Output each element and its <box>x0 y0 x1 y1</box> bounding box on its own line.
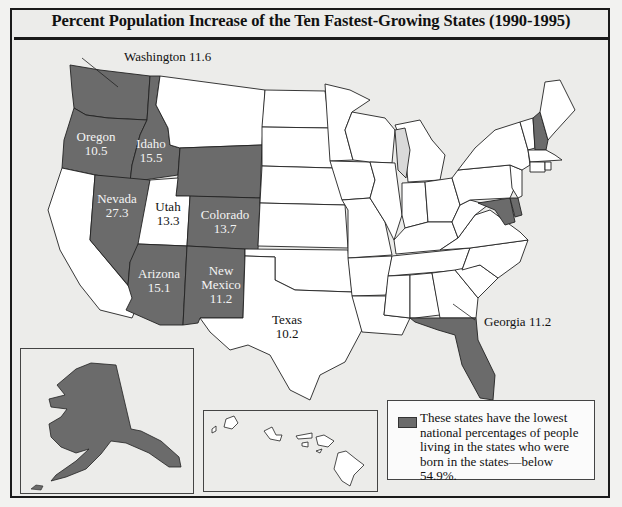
state-arkansas <box>348 256 392 296</box>
legend-swatch <box>398 417 417 428</box>
state-florida <box>410 318 495 400</box>
state-hawaii <box>204 411 377 491</box>
label-idaho-name: Idaho <box>128 137 174 151</box>
state-indiana <box>402 182 428 228</box>
label-colorado-value: 13.7 <box>193 222 257 236</box>
label-arizona-value: 15.1 <box>132 281 186 295</box>
label-utah-value: 13.3 <box>148 214 188 228</box>
label-idaho: Idaho 15.5 <box>128 137 174 165</box>
label-new-mexico-name1: New <box>193 264 249 278</box>
state-mississippi <box>384 275 410 318</box>
label-new-mexico-value: 11.2 <box>193 292 249 306</box>
label-nevada-value: 27.3 <box>92 206 142 220</box>
label-arizona: Arizona 15.1 <box>132 267 186 295</box>
state-wyoming <box>176 145 262 198</box>
label-idaho-value: 15.5 <box>128 151 174 165</box>
label-nevada: Nevada 27.3 <box>92 192 142 220</box>
state-north-dakota <box>262 90 330 128</box>
state-massachusetts <box>528 150 562 162</box>
label-washington: Washington 11.6 <box>124 50 211 64</box>
state-kansas <box>258 203 348 248</box>
label-texas-name: Texas <box>262 313 312 327</box>
label-new-mexico-name2: Mexico <box>193 278 249 292</box>
state-washington <box>70 65 150 120</box>
label-oregon-value: 10.5 <box>68 144 124 158</box>
label-utah: Utah 13.3 <box>148 200 188 228</box>
state-maine <box>540 80 575 140</box>
state-alaska <box>21 349 193 493</box>
label-new-mexico: New Mexico 11.2 <box>193 264 249 306</box>
label-utah-name: Utah <box>148 200 188 214</box>
label-oregon-name: Oregon <box>68 130 124 144</box>
label-georgia: Georgia 11.2 <box>484 315 551 329</box>
label-oregon: Oregon 10.5 <box>68 130 124 158</box>
state-nebraska <box>260 166 345 205</box>
label-colorado-name: Colorado <box>193 208 257 222</box>
state-wisconsin <box>345 112 395 163</box>
state-new-york <box>458 122 530 170</box>
state-south-dakota <box>262 127 333 168</box>
alaska-inset <box>20 348 194 494</box>
hawaii-inset <box>203 410 378 492</box>
legend-box: These states have the lowest national pe… <box>387 400 595 480</box>
label-nevada-name: Nevada <box>92 192 142 206</box>
state-rhode-island <box>545 162 551 170</box>
label-colorado: Colorado 13.7 <box>193 208 257 236</box>
label-texas: Texas 10.2 <box>262 313 312 341</box>
label-arizona-name: Arizona <box>132 267 186 281</box>
legend-text: These states have the lowest national pe… <box>420 411 592 484</box>
state-connecticut <box>530 162 545 172</box>
label-texas-value: 10.2 <box>262 327 312 341</box>
